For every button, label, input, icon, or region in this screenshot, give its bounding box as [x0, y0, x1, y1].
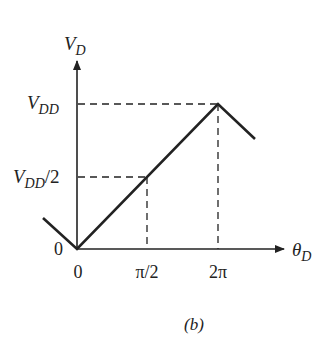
characteristic-curve — [43, 104, 255, 249]
y-tick-zero: 0 — [54, 239, 63, 259]
x-tick-half-pi: π/2 — [135, 262, 158, 282]
y-tick-vdd: VDD — [27, 92, 59, 117]
y-tick-half-vdd: VDD/2 — [13, 166, 60, 191]
figure-caption: (b) — [184, 315, 204, 334]
y-axis-label: VD — [64, 33, 86, 58]
x-tick-two-pi: 2π — [209, 262, 227, 282]
phase-detector-diagram: VD VDD VDD/2 0 0 π/2 2π θD (b) — [0, 0, 331, 355]
x-axis-label: θD — [292, 239, 311, 264]
x-tick-zero: 0 — [74, 262, 83, 282]
